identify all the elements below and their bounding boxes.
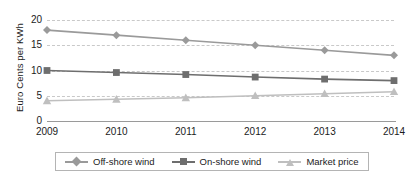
y-axis-tick-labels: 05101520 xyxy=(8,20,42,121)
x-tick-label: 2014 xyxy=(364,126,410,137)
y-tick-label: 10 xyxy=(12,65,42,76)
legend-label: Off-shore wind xyxy=(93,156,155,167)
triangle-marker-icon xyxy=(278,157,301,167)
square-marker-icon xyxy=(172,157,195,167)
x-axis-line xyxy=(47,121,396,122)
data-point-marker xyxy=(44,67,51,74)
legend-item-on-shore-wind[interactable]: On-shore wind xyxy=(172,156,262,167)
data-point-marker xyxy=(252,74,259,81)
series-off-shore-wind xyxy=(43,26,398,59)
x-axis-tick-labels: 200920102011201220132014 xyxy=(47,126,394,142)
x-tick-label: 2009 xyxy=(17,126,77,137)
legend-item-market-price[interactable]: Market price xyxy=(278,156,358,167)
data-point-marker xyxy=(251,41,259,49)
data-point-marker xyxy=(321,76,328,83)
y-tick-label: 0 xyxy=(12,115,42,126)
x-tick-label: 2013 xyxy=(295,126,355,137)
legend-item-off-shore-wind[interactable]: Off-shore wind xyxy=(65,156,155,167)
series-market-price xyxy=(43,88,398,105)
series-line xyxy=(47,71,394,81)
data-point-marker xyxy=(113,69,120,76)
data-point-marker xyxy=(112,31,120,39)
series-layer xyxy=(47,20,394,121)
data-point-marker xyxy=(182,36,190,44)
data-point-marker xyxy=(391,77,398,84)
diamond-marker-icon xyxy=(65,157,88,167)
x-tick-label: 2012 xyxy=(225,126,285,137)
y-tick-label: 15 xyxy=(12,39,42,50)
chart-legend: Off-shore windOn-shore windMarket price xyxy=(55,152,369,171)
x-tick-label: 2011 xyxy=(156,126,216,137)
data-point-marker xyxy=(390,51,398,59)
series-line xyxy=(47,92,394,101)
data-point-marker xyxy=(321,46,329,54)
data-point-marker xyxy=(43,26,51,34)
y-tick-label: 20 xyxy=(12,14,42,25)
legend-label: On-shore wind xyxy=(200,156,262,167)
data-point-marker xyxy=(182,71,189,78)
series-line xyxy=(47,30,394,55)
series-on-shore-wind xyxy=(44,67,398,84)
x-tick-label: 2010 xyxy=(86,126,146,137)
y-tick-label: 5 xyxy=(12,90,42,101)
legend-label: Market price xyxy=(306,156,358,167)
